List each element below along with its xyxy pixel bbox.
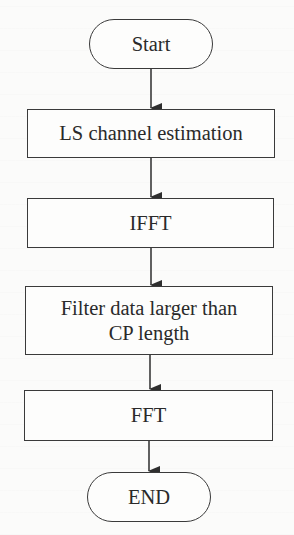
filter-cp-box: Filter data larger than CP length: [25, 286, 273, 355]
filter-cp-label-line-2: CP length: [109, 321, 190, 346]
ifft-label: IFFT: [129, 211, 171, 236]
ifft-box: IFFT: [27, 198, 274, 248]
end-label: END: [128, 485, 170, 510]
ls-channel-estimation-box: LS channel estimation: [27, 109, 275, 158]
flowchart-canvas: Start LS channel estimation IFFT Filter …: [0, 0, 294, 535]
fft-label: FFT: [131, 403, 166, 428]
filter-cp-label-line-1: Filter data larger than: [61, 296, 238, 321]
start-terminal: Start: [89, 19, 213, 69]
connector-layer: [0, 0, 294, 535]
start-label: Start: [132, 32, 171, 57]
ls-channel-estimation-label: LS channel estimation: [59, 121, 242, 146]
end-terminal: END: [87, 472, 211, 522]
fft-box: FFT: [24, 390, 273, 441]
